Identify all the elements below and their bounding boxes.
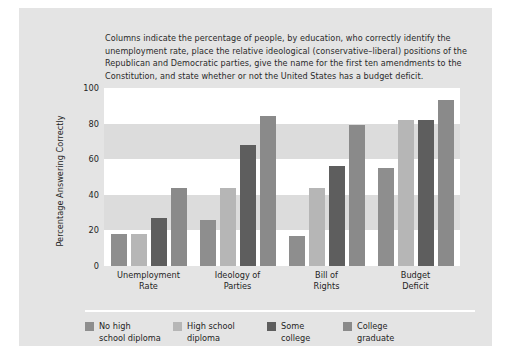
- bar-group: [200, 88, 276, 266]
- y-axis-tick-label: 40: [73, 190, 99, 200]
- y-axis-tick-label: 0: [73, 261, 99, 271]
- x-axis-category-label: Bill of Rights: [282, 270, 372, 292]
- x-axis-category-label: Budget Deficit: [371, 270, 461, 292]
- legend-label: Some college: [281, 321, 310, 344]
- bar: [200, 220, 216, 266]
- bar: [260, 116, 276, 266]
- legend-item[interactable]: Some college: [267, 321, 310, 344]
- bar-group: [289, 88, 365, 266]
- legend-item[interactable]: No high school diploma: [85, 321, 161, 344]
- legend-label: No high school diploma: [99, 321, 161, 344]
- y-axis-tick-labels: 020406080100: [71, 88, 99, 266]
- bar: [418, 120, 434, 266]
- y-axis-tick-label: 60: [73, 154, 99, 164]
- y-axis-tick-label: 80: [73, 119, 99, 129]
- bar: [398, 120, 414, 266]
- bar: [438, 100, 454, 266]
- figure-panel: Columns indicate the percentage of peopl…: [19, 8, 492, 346]
- plot-area: [104, 88, 460, 266]
- bar: [111, 234, 127, 266]
- legend-swatch-icon: [343, 322, 352, 331]
- bar: [378, 168, 394, 266]
- x-axis-category-label: Ideology of Parties: [193, 270, 283, 292]
- bar: [349, 125, 365, 266]
- bar: [220, 188, 236, 266]
- bar-group: [111, 88, 187, 266]
- bar-series-layer: [104, 88, 460, 266]
- bar: [289, 236, 305, 266]
- bar: [309, 188, 325, 266]
- y-axis-title: Percentage Answering Correctly: [55, 101, 65, 261]
- bar-group: [378, 88, 454, 266]
- legend-label: College graduate: [357, 321, 394, 344]
- bar: [329, 166, 345, 266]
- legend-swatch-icon: [173, 322, 182, 331]
- chart-legend: No high school diplomaHigh school diplom…: [85, 321, 485, 349]
- chart-plot-region: Percentage Answering Correctly 020406080…: [19, 8, 492, 346]
- bar: [240, 145, 256, 266]
- bar: [151, 218, 167, 266]
- y-axis-tick-label: 20: [73, 225, 99, 235]
- legend-swatch-icon: [267, 322, 276, 331]
- x-axis-category-labels: Unemployment RateIdeology of PartiesBill…: [104, 270, 460, 296]
- legend-divider: [85, 310, 475, 312]
- legend-item[interactable]: College graduate: [343, 321, 394, 344]
- bar: [171, 188, 187, 266]
- bar: [131, 234, 147, 266]
- legend-label: High school diploma: [187, 321, 235, 344]
- x-axis-category-label: Unemployment Rate: [104, 270, 194, 292]
- legend-swatch-icon: [85, 322, 94, 331]
- legend-item[interactable]: High school diploma: [173, 321, 235, 344]
- y-axis-tick-label: 100: [73, 83, 99, 93]
